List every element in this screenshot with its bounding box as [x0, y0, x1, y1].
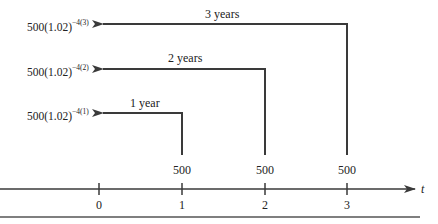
pv-expression-1: 500(1.02)−4(1): [27, 107, 89, 122]
pv-base-1: 500(1.02): [27, 110, 72, 122]
tick-label-0: 0: [89, 199, 109, 211]
pv-expression-2: 500(1.02)−4(2): [27, 63, 89, 78]
pv-exponent-1: −4(1): [72, 107, 89, 116]
payment-amount-2: 500: [250, 164, 280, 176]
axis-variable-label: t: [421, 183, 424, 195]
payment-amount-1: 500: [167, 164, 197, 176]
duration-label-1: 1 year: [130, 97, 160, 109]
tick-label-3: 3: [337, 199, 357, 211]
pv-exponent-2: −4(2): [72, 63, 89, 72]
pv-expression-3: 500(1.02)−4(3): [27, 18, 89, 33]
tick-label-1: 1: [172, 199, 192, 211]
tick-label-2: 2: [255, 199, 275, 211]
payment-amount-3: 500: [332, 164, 362, 176]
discount-arrow-3-years: [103, 24, 347, 155]
pv-exponent-3: −4(3): [72, 18, 89, 27]
duration-label-3: 3 years: [205, 8, 239, 20]
duration-label-2: 2 years: [168, 52, 202, 64]
pv-base-3: 500(1.02): [27, 21, 72, 33]
pv-base-2: 500(1.02): [27, 66, 72, 78]
discount-arrow-1-year: [103, 113, 182, 155]
time-axis: [0, 183, 415, 195]
